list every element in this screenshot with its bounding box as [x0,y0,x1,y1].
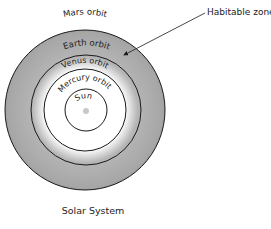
diagram-caption: Solar System [58,205,128,216]
habitable-zone-label: Habitable zone [207,7,271,17]
habitable-zone-arrow [124,13,205,55]
solar-system-diagram: Mars orbit Earth orbit Venus orbit Mercu… [0,0,271,229]
sun-dot [83,108,89,114]
mars-orbit-label: Mars orbit [62,7,109,20]
